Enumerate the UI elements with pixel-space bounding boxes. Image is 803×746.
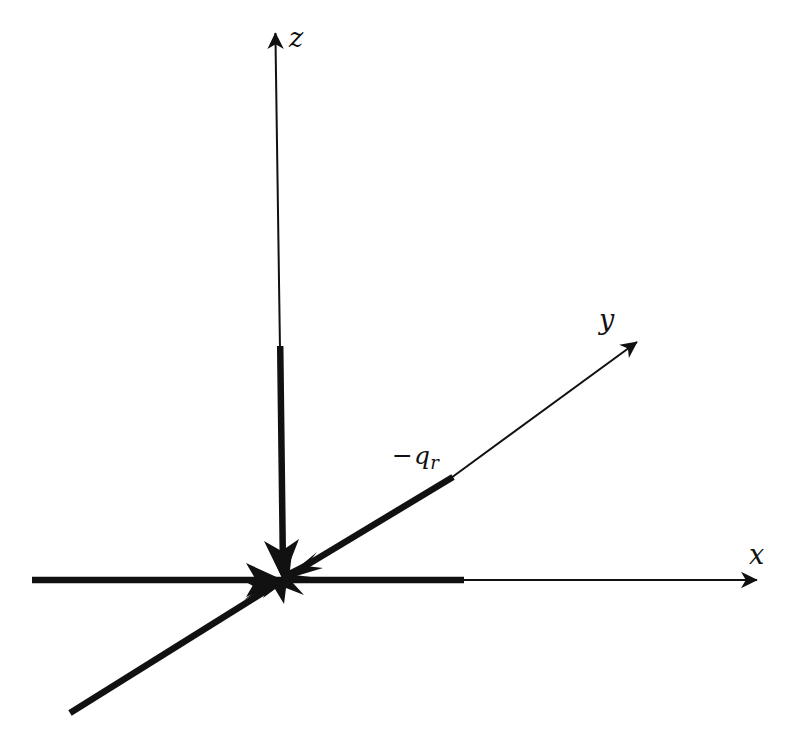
y-axis-group: [292, 342, 637, 574]
z-axis-group: [275, 33, 283, 570]
r-subscript: r: [430, 452, 439, 473]
y-axis-thin-segment: [451, 342, 637, 478]
minus-qr-vector-label: −qr: [392, 443, 439, 472]
y-axis-thick-segment: [292, 477, 453, 574]
minus-sign: −: [392, 441, 413, 470]
z-axis-thick-segment: [280, 346, 283, 570]
axes-drawing: [0, 0, 803, 746]
x-axis-label: x: [749, 541, 764, 568]
z-axis-thin-segment: [275, 33, 280, 350]
coordinate-axes-figure: z y x −qr: [0, 0, 803, 746]
diagonal-lower-left-arm: [70, 580, 283, 713]
y-axis-label: y: [599, 306, 614, 333]
q-symbol: q: [414, 441, 430, 470]
z-axis-label: z: [289, 24, 303, 51]
